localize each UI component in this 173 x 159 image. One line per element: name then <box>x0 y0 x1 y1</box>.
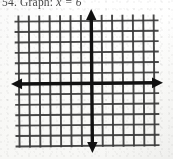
y-axis-arrow-down <box>87 142 97 153</box>
x-axis-arrow-left <box>11 79 22 90</box>
worksheet-page: 54. Graph: x = 6 <box>0 0 173 159</box>
problem-equation: x = 6 <box>56 0 81 8</box>
problem-instruction: Graph: <box>20 0 53 8</box>
problem-heading: 54. Graph: x = 6 <box>2 0 82 8</box>
y-axis-arrow-up <box>86 9 96 20</box>
vertical-grid-lines <box>18 14 154 147</box>
x-axis-arrow-right <box>152 77 163 88</box>
graph-svg <box>10 8 163 153</box>
problem-number: 54. <box>2 0 17 8</box>
coordinate-grid-graph[interactable] <box>10 8 163 153</box>
x-axis <box>11 77 163 89</box>
